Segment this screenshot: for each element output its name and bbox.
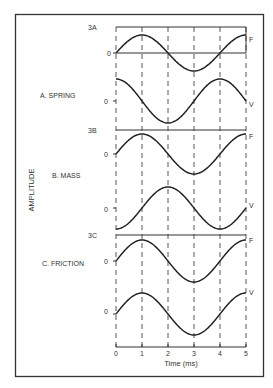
svg-text:0: 0 <box>114 350 118 357</box>
svg-text:3: 3 <box>192 350 196 357</box>
zero-label-mass-f: 0 <box>104 151 108 158</box>
curve-b-massf <box>116 134 246 174</box>
time-gridlines <box>116 27 246 347</box>
curve-c-frictionf <box>116 240 246 282</box>
x-axis-label: Time (ms) <box>164 359 198 368</box>
trace-label-friction-v: V <box>249 289 254 296</box>
panel-title-friction: C. FRICTION <box>42 260 84 267</box>
zero-label-mass-v: 0 <box>104 206 108 213</box>
svg-text:5: 5 <box>244 350 248 357</box>
y-axis-label: AMPLITUDE <box>27 169 36 212</box>
trace-label-spring-v: V <box>249 101 254 108</box>
trace-label-mass-f: F <box>249 133 253 140</box>
panel-title-spring: A. SPRING <box>40 92 75 99</box>
svg-text:2: 2 <box>166 350 170 357</box>
zero-label-friction-v: 0 <box>104 308 108 315</box>
panel-title-mass: B. MASS <box>52 172 81 179</box>
zero-label-friction-f: 0 <box>104 258 108 265</box>
x-axis-ticks: 012345 <box>114 344 248 357</box>
zero-label-spring-f: 0 <box>107 50 111 57</box>
curve-c-frictionv <box>116 293 246 335</box>
zero-label-spring-v: 0 <box>104 98 108 105</box>
figure-frame <box>16 15 264 377</box>
panel-tag-3a: 3A <box>88 24 97 31</box>
panel-tag-3c: 3C <box>88 232 97 239</box>
phase-diagram: AMPLITUDE 3A A. SPRING 3B B. MASS 3C C. … <box>0 0 273 388</box>
svg-text:1: 1 <box>140 350 144 357</box>
curve-a-springv <box>116 79 246 123</box>
panel-tag-3b: 3B <box>88 127 97 134</box>
svg-text:4: 4 <box>218 350 222 357</box>
trace-label-friction-f: F <box>249 237 253 244</box>
trace-label-mass-v: V <box>249 202 254 209</box>
panels <box>113 27 246 335</box>
curve-b-massv <box>116 187 246 229</box>
trace-label-spring-f: F <box>249 36 253 43</box>
